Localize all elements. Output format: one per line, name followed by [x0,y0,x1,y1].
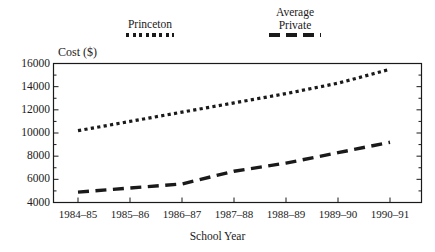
plot-area [0,0,435,252]
axis-ticks [54,64,422,203]
data-series [78,69,390,192]
series-line-princeton [78,69,390,130]
chart-figure: Princeton Average Private Cost ($) 40006… [0,0,435,252]
series-line-average-private [78,142,390,192]
plot-frame [54,64,422,203]
